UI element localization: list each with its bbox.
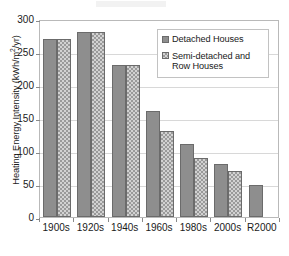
y-axis-tick-label: 50: [8, 180, 34, 190]
bar: [43, 39, 57, 217]
x-axis-tick-labels: 1900s1920s1940s1960s1980s2000sR2000: [39, 222, 279, 238]
scan-artifact: [96, 1, 166, 7]
y-axis-tick-mark: [36, 219, 40, 220]
bar-group: [40, 21, 74, 217]
y-axis-tick-label: 150: [8, 114, 34, 124]
bar: [180, 144, 194, 217]
checkered-gray-swatch: [162, 52, 169, 59]
bar-group: [74, 21, 108, 217]
legend-label: Semi-detached and Row Houses: [172, 51, 264, 72]
bar: [160, 131, 174, 217]
bar-group: [109, 21, 143, 217]
bar: [194, 158, 208, 217]
bar: [249, 185, 263, 217]
legend-label: Detached Houses: [172, 34, 244, 45]
bar: [91, 32, 105, 217]
y-axis-tick-label: 100: [8, 147, 34, 157]
bar: [112, 65, 126, 217]
y-axis-tick-label: 250: [8, 48, 34, 58]
heating-energy-intensity-bar-chart: Heating Energy Intensity (kWh/m2/yr) 050…: [0, 0, 289, 256]
solid-gray-swatch: [162, 36, 169, 43]
y-axis-tick-label: 300: [8, 15, 34, 25]
bar: [146, 111, 160, 217]
chart-legend: Detached HousesSemi-detached and Row Hou…: [157, 29, 269, 78]
x-axis-tick-label: R2000: [242, 222, 282, 234]
bar: [228, 171, 242, 217]
bar: [126, 65, 140, 217]
y-axis-tick-label: 200: [8, 81, 34, 91]
bar: [57, 39, 71, 217]
bar: [214, 164, 228, 217]
y-axis-tick-label: 0: [8, 213, 34, 223]
legend-entry: Semi-detached and Row Houses: [162, 51, 264, 72]
bar: [77, 32, 91, 217]
legend-entry: Detached Houses: [162, 34, 264, 45]
y-axis-tick-labels: 050100150200250300: [8, 0, 34, 256]
